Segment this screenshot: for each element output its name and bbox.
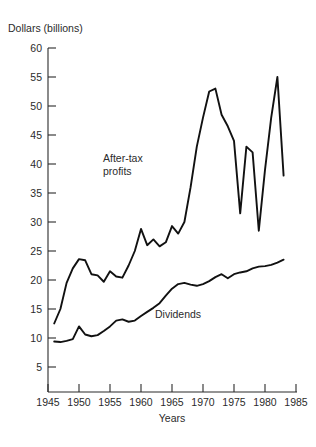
x-tick-label: 1980 xyxy=(253,396,277,408)
x-axis-ticks xyxy=(48,384,296,392)
x-tick-label: 1945 xyxy=(36,396,60,408)
y-tick-label: 10 xyxy=(30,332,42,344)
y-tick-label: 45 xyxy=(30,129,42,141)
y-tick-label: 15 xyxy=(30,303,42,315)
y-tick-label: 5 xyxy=(36,361,42,373)
x-tick-label: 1985 xyxy=(284,396,308,408)
y-tick-label: 20 xyxy=(30,274,42,286)
chart-container: Dollars (billions) 60 55 50 45 40 35 30 … xyxy=(0,0,316,447)
line-chart: Dollars (billions) 60 55 50 45 40 35 30 … xyxy=(0,0,316,447)
y-tick-label: 35 xyxy=(30,187,42,199)
y-tick-label: 55 xyxy=(30,71,42,83)
y-tick-label: 30 xyxy=(30,216,42,228)
series-annotation-after-tax-profits-line1: After-tax xyxy=(103,152,143,164)
series-line-after-tax-profits xyxy=(54,77,283,324)
y-axis-title: Dollars (billions) xyxy=(8,22,83,34)
x-tick-label: 1970 xyxy=(191,396,215,408)
x-tick-label: 1950 xyxy=(67,396,91,408)
series-line-dividends xyxy=(54,260,283,342)
y-tick-label: 50 xyxy=(30,100,42,112)
x-axis-title: Years xyxy=(159,412,185,424)
y-tick-label: 25 xyxy=(30,245,42,257)
y-axis-ticks xyxy=(48,48,56,367)
series-annotation-after-tax-profits-line2: profits xyxy=(103,165,132,177)
series-annotation-dividends: Dividends xyxy=(155,308,201,320)
x-tick-label: 1960 xyxy=(129,396,153,408)
x-tick-label: 1975 xyxy=(222,396,246,408)
x-tick-label: 1965 xyxy=(160,396,184,408)
y-tick-label: 60 xyxy=(30,42,42,54)
x-tick-label: 1955 xyxy=(98,396,122,408)
x-axis-tick-labels: 1945 1950 1955 1960 1965 1970 1975 1980 … xyxy=(36,396,308,408)
y-axis-tick-labels: 60 55 50 45 40 35 30 25 20 15 10 5 xyxy=(30,42,42,373)
y-tick-label: 40 xyxy=(30,158,42,170)
